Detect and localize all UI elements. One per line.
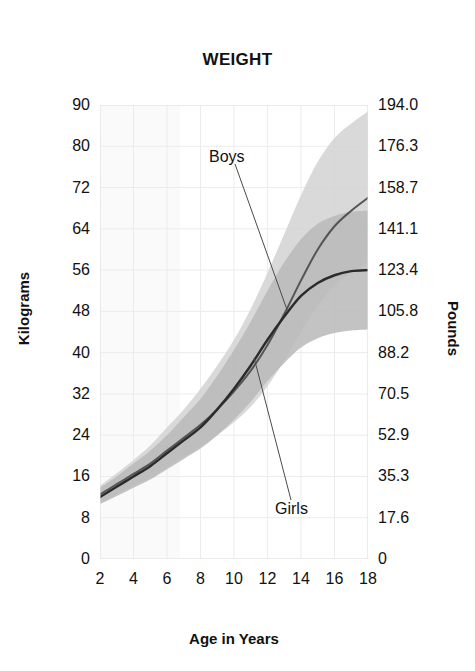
- boys-annotation: Boys: [209, 148, 245, 166]
- y-axis-title-right: Pounds: [445, 274, 462, 384]
- y-axis-right-tick-label: 52.9: [378, 427, 438, 443]
- y-axis-title-left: Kilograms: [15, 254, 32, 364]
- plot-svg: [100, 105, 368, 559]
- y-axis-right-tick-label: 158.7: [378, 180, 438, 196]
- y-axis-right-tick-label: 17.6: [378, 510, 438, 526]
- y-axis-right-tick-label: 123.4: [378, 262, 438, 278]
- x-axis-title: Age in Years: [100, 630, 368, 647]
- y-axis-left-tick-label: 72: [44, 180, 90, 196]
- x-axis-tick-label: 18: [348, 571, 388, 587]
- y-axis-left-tick-label: 64: [44, 221, 90, 237]
- y-axis-right-tick-label: 35.3: [378, 468, 438, 484]
- girls-annotation: Girls: [275, 500, 308, 518]
- plot-area: [100, 105, 368, 559]
- y-axis-left-tick-label: 80: [44, 138, 90, 154]
- y-axis-left-tick-label: 32: [44, 386, 90, 402]
- page-title: WEIGHT: [0, 50, 475, 70]
- y-axis-right-tick-label: 105.8: [378, 303, 438, 319]
- y-axis-left-tick-label: 16: [44, 468, 90, 484]
- y-axis-right-tick-label: 176.3: [378, 138, 438, 154]
- girls-annotation-leader-line: [254, 358, 291, 500]
- y-axis-left-tick-label: 48: [44, 303, 90, 319]
- weight-growth-chart-figure: WEIGHT Kilograms Pounds Age in Years 081…: [0, 0, 475, 671]
- y-axis-right-tick-label: 88.2: [378, 345, 438, 361]
- y-axis-left-tick-label: 40: [44, 345, 90, 361]
- y-axis-left-tick-label: 8: [44, 510, 90, 526]
- y-axis-left-tick-label: 24: [44, 427, 90, 443]
- y-axis-right-tick-label: 70.5: [378, 386, 438, 402]
- y-axis-left-tick-label: 56: [44, 262, 90, 278]
- y-axis-left-tick-label: 90: [44, 97, 90, 113]
- y-axis-right-tick-label: 141.1: [378, 221, 438, 237]
- y-axis-right-tick-label: 194.0: [378, 97, 438, 113]
- y-axis-left-tick-label: 0: [44, 551, 90, 567]
- y-axis-right-tick-label: 0: [378, 551, 438, 567]
